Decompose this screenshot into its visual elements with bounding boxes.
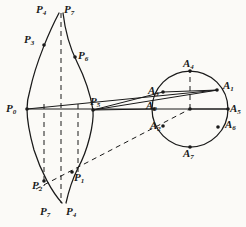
curve-label-p4_bot: P4 (66, 206, 76, 217)
point-A1 (215, 88, 219, 92)
point-P2 (42, 179, 46, 183)
circle-label-a7: A7 (183, 148, 194, 159)
curve-label-p7_bot: P7 (40, 206, 50, 217)
circle-label-a1: A1 (223, 80, 234, 91)
circle-label-a0: A0 (146, 100, 157, 111)
circle-label-a2: A2 (150, 120, 161, 131)
point-P5 (91, 108, 95, 112)
curve-label-p1: P1 (74, 172, 84, 183)
point-A2 (161, 124, 165, 128)
circle-label-a5: A5 (230, 103, 241, 114)
curve-label-p2: P2 (32, 180, 42, 191)
circle-label-a6: A6 (225, 119, 236, 130)
point-A3 (161, 90, 165, 94)
curve-label-p3: P3 (24, 34, 34, 45)
circle-label-a3: A3 (148, 85, 159, 96)
curve-label-p7_top: P7 (64, 4, 74, 15)
geometric-figure: P0P4P7P3P6P5P1P2P7P4A4A1A5A6A7A3A0A2 (0, 0, 246, 227)
figure-canvas (0, 0, 246, 227)
dashed-line-group (36, 71, 190, 189)
solid-line-group (27, 90, 229, 110)
point-circle-center (188, 107, 192, 111)
point-P6 (73, 55, 77, 59)
curve-label-p5: P5 (90, 96, 100, 107)
curve-label-p4_top: P4 (36, 4, 46, 15)
curve-label-p6: P6 (78, 50, 88, 61)
circle-label-a4: A4 (183, 58, 194, 69)
point-P0 (25, 107, 29, 111)
curve-label-p0: P0 (6, 103, 16, 114)
point-marker-group (25, 43, 230, 183)
point-P3 (42, 43, 46, 47)
point-A6 (216, 125, 220, 129)
line-P0-to-A1 (27, 90, 218, 109)
dashed-P2-to-A2 (36, 109, 190, 189)
